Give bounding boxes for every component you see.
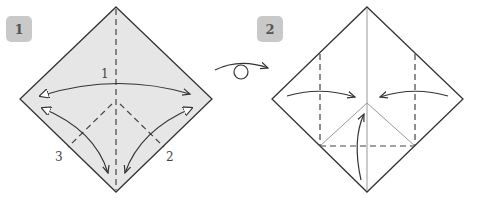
fold-label-3: 3 xyxy=(55,150,63,164)
fold-label-2: 2 xyxy=(166,150,174,164)
step-2-diagram xyxy=(272,7,463,192)
diagram-canvas: 1 2 3 xyxy=(0,0,480,202)
step-1-diagram: 1 2 3 xyxy=(20,7,212,192)
turn-over-icon xyxy=(215,63,268,79)
fold-label-1: 1 xyxy=(101,67,109,81)
step-number-badge-1: 1 xyxy=(6,16,32,42)
step-number-badge-2: 2 xyxy=(257,16,283,42)
origami-diagram: 1 2 3 1 2 xyxy=(0,0,480,202)
